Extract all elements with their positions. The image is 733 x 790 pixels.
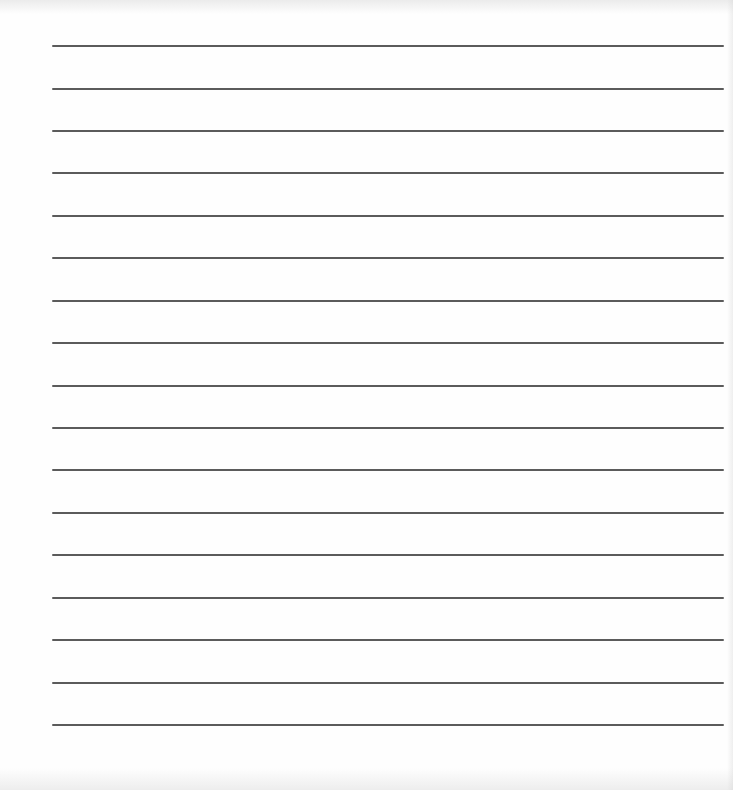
ruled-line xyxy=(52,469,724,471)
ruled-line xyxy=(52,45,724,47)
ruled-line xyxy=(52,682,724,684)
scan-shadow-bottom xyxy=(0,768,733,790)
lined-paper-page xyxy=(0,0,733,790)
ruled-line xyxy=(52,597,724,599)
ruled-line xyxy=(52,342,724,344)
ruled-line xyxy=(52,385,724,387)
ruled-line xyxy=(52,639,724,641)
ruled-line xyxy=(52,724,724,726)
ruled-line xyxy=(52,512,724,514)
ruled-line xyxy=(52,88,724,90)
ruled-line xyxy=(52,130,724,132)
ruled-line xyxy=(52,427,724,429)
ruled-line xyxy=(52,554,724,556)
ruled-line xyxy=(52,172,724,174)
scan-shadow-top xyxy=(0,0,733,14)
ruled-line xyxy=(52,215,724,217)
ruled-line xyxy=(52,300,724,302)
scan-shadow-right xyxy=(727,0,733,790)
ruled-line xyxy=(52,257,724,259)
